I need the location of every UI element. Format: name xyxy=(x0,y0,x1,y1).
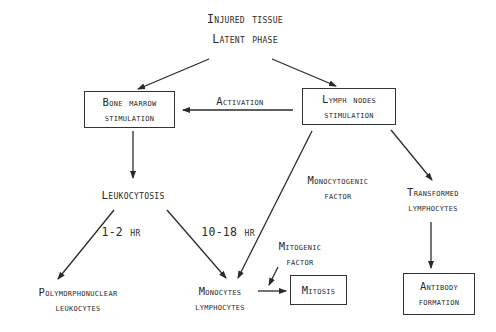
lymph-nodes-stimulation-label: stimulation xyxy=(324,107,374,122)
edge-label-1-2-hr: 1-2 hr xyxy=(98,225,144,240)
node-monocytes-lymphocytes: Monocytes lymphocytes xyxy=(184,284,256,314)
edge-label-monocytogenic-factor: Monocytogenic factor xyxy=(288,173,388,203)
leukocytes-label: leukocytes xyxy=(18,300,138,315)
node-antibody-formation: Antibody formation xyxy=(403,273,475,315)
node-bone-marrow-stimulation: Bone marrow stimulation xyxy=(84,91,175,128)
polymorphonuclear-label: Polymorphonuclear xyxy=(18,285,138,300)
edge-label-mitogenic-factor: Mitogenic factor xyxy=(265,239,335,269)
bone-marrow-stimulation-label: stimulation xyxy=(105,110,155,125)
node-polymorphonuclear-leukocytes: Polymorphonuclear leukocytes xyxy=(18,285,138,315)
formation-label: formation xyxy=(419,294,460,309)
node-injured-tissue: Injured tissue Latent phase xyxy=(170,12,320,47)
monocytogenic-label: Monocytogenic xyxy=(288,173,388,188)
factor-label: factor xyxy=(288,188,388,203)
edge-label-10-18-hr: 10-18 hr xyxy=(198,225,258,240)
lymphocytes-label: lymphocytes xyxy=(395,200,471,215)
node-mitosis: Mitosis xyxy=(290,275,347,305)
latent-phase-label: Latent phase xyxy=(170,32,320,47)
bone-marrow-label: Bone marrow xyxy=(103,95,157,110)
lymphocytes-label-2: lymphocytes xyxy=(184,299,256,314)
edge-label-activation: Activation xyxy=(200,94,280,109)
mitosis-label: Mitosis xyxy=(302,283,336,298)
injured-tissue-label: Injured tissue xyxy=(170,12,320,27)
transformed-label: Transformed xyxy=(395,185,471,200)
node-lymph-nodes-stimulation: Lymph nodes stimulation xyxy=(302,88,396,125)
lymph-nodes-label: Lymph nodes xyxy=(322,92,376,107)
node-transformed-lymphocytes: Transformed lymphocytes xyxy=(395,185,471,215)
mitogenic-factor-label: factor xyxy=(265,254,335,269)
monocytes-label: Monocytes xyxy=(184,284,256,299)
node-leukocytosis: Leukocytosis xyxy=(85,188,181,203)
antibody-label: Antibody xyxy=(420,279,458,294)
mitogenic-label: Mitogenic xyxy=(265,239,335,254)
